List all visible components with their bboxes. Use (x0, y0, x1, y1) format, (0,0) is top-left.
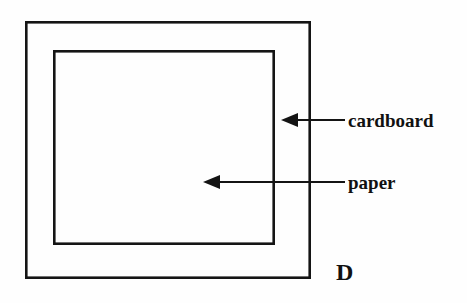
figure-container: cardboard paper D (0, 0, 467, 303)
panel-letter: D (336, 259, 353, 285)
diagram-canvas: cardboard paper D (0, 0, 467, 303)
paper-label: paper (348, 172, 396, 193)
cardboard-label: cardboard (348, 110, 434, 131)
figure-background (0, 0, 467, 303)
